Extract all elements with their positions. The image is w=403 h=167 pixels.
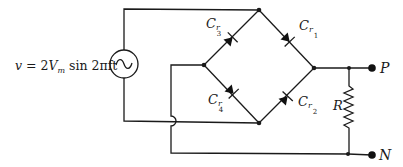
- diode-cr2: [277, 91, 293, 106]
- resistor-r: [344, 68, 353, 154]
- wire-source-bottom: [124, 78, 259, 123]
- node-top: [257, 8, 262, 13]
- label-p: P: [379, 60, 390, 76]
- label-cr4: Cr4: [208, 92, 224, 114]
- source-equation: v = 2Vm sin 2πft: [15, 58, 117, 75]
- diode-cr2-triangle-icon: [279, 93, 292, 106]
- sine-wave-icon: [116, 60, 132, 69]
- diode-cr4-triangle-icon: [225, 84, 238, 97]
- node-resistor-top: [347, 66, 351, 70]
- diode-cr3-triangle-icon: [224, 34, 237, 47]
- label-resistor: R: [332, 98, 343, 113]
- diode-cr3: [222, 32, 238, 48]
- wires: [124, 9, 372, 155]
- node-left: [202, 63, 207, 68]
- label-cr2: Cr2: [298, 94, 317, 116]
- node-resistor-bottom: [346, 152, 350, 156]
- label-cr3: Cr3: [206, 16, 221, 38]
- label-n: N: [378, 147, 392, 163]
- diode-cr4: [223, 83, 239, 98]
- terminal-n: [368, 151, 376, 159]
- node-bottom: [257, 121, 262, 126]
- terminal-p: [368, 64, 376, 72]
- node-right: [312, 66, 317, 71]
- bridge-rectifier-diagram: v = 2Vm sin 2πft: [0, 0, 403, 167]
- label-cr1: Cr1: [299, 18, 318, 40]
- wire-left-node-to-negative: [171, 65, 348, 154]
